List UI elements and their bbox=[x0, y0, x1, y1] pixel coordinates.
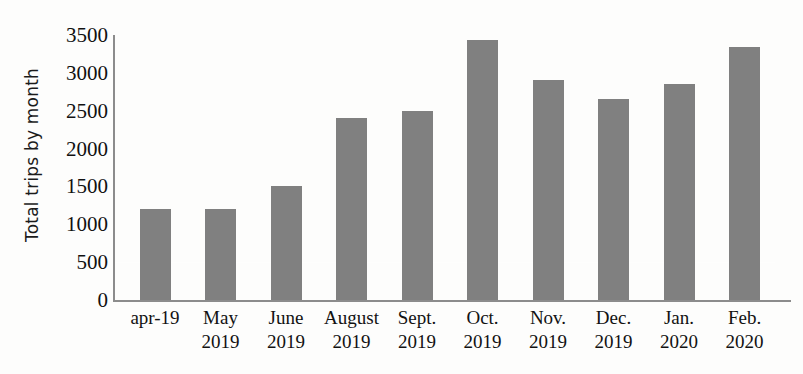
x-axis-category-labels: apr-19May2019June2019August2019Sept.2019… bbox=[113, 306, 791, 372]
x-axis-line bbox=[113, 300, 791, 302]
y-tick-label: 1500 bbox=[50, 176, 108, 197]
bar bbox=[598, 99, 629, 300]
x-category-label-line: 2020 bbox=[703, 330, 787, 354]
x-category-label-line: Feb. bbox=[703, 306, 787, 330]
bar bbox=[664, 84, 695, 300]
bar bbox=[205, 209, 236, 300]
bar-chart-figure: Total trips by month 0500100015002000250… bbox=[0, 0, 803, 374]
y-tick-label: 500 bbox=[50, 252, 108, 273]
y-axis-title-label: Total trips by month bbox=[22, 68, 42, 242]
y-tick-label: 2500 bbox=[50, 100, 108, 121]
bars-layer bbox=[113, 35, 791, 300]
y-tick-label: 1000 bbox=[50, 214, 108, 235]
x-category-label: Feb.2020 bbox=[703, 306, 787, 354]
bar bbox=[533, 80, 564, 300]
y-tick-label: 0 bbox=[50, 290, 108, 311]
y-tick-label: 2000 bbox=[50, 138, 108, 159]
y-tick-label: 3500 bbox=[50, 25, 108, 46]
plot-area bbox=[113, 35, 791, 300]
bar bbox=[140, 209, 171, 300]
bar bbox=[336, 118, 367, 300]
y-axis-tick-labels: 0500100015002000250030003500 bbox=[50, 0, 108, 374]
bar bbox=[271, 186, 302, 300]
bar bbox=[467, 40, 498, 300]
y-axis-title: Total trips by month bbox=[14, 0, 50, 310]
bar bbox=[402, 111, 433, 300]
bar bbox=[729, 47, 760, 300]
y-tick-label: 3000 bbox=[50, 62, 108, 83]
